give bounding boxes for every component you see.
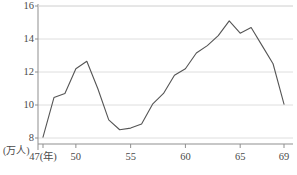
y-tick-label-14: 14 (6, 34, 34, 45)
y-tick-label-8: 8 (6, 133, 34, 144)
chart-background (0, 0, 297, 175)
x-tick-label-65: 65 (217, 152, 263, 163)
y-tick-label-16: 16 (6, 1, 34, 12)
line-chart: 810121416 47(年)5055606569 (万人) (0, 0, 297, 175)
x-tick-label-55: 55 (108, 152, 154, 163)
x-tick-label-69: 69 (261, 152, 297, 163)
y-tick-label-10: 10 (6, 100, 34, 111)
x-tick-label-60: 60 (162, 152, 208, 163)
chart-canvas (0, 0, 297, 175)
y-axis-unit-label: (万人) (3, 146, 30, 156)
x-tick-label-50: 50 (53, 152, 99, 163)
y-tick-label-12: 12 (6, 67, 34, 78)
